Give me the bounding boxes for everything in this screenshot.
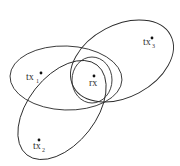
tx1-point-icon — [40, 72, 43, 75]
tx3-label: tx — [143, 36, 151, 47]
tx2-subscript: 2 — [42, 147, 45, 153]
tx3-subscript: 3 — [152, 43, 155, 49]
tx1-subscript: 1 — [36, 78, 39, 84]
rx-label: rx — [89, 77, 97, 88]
tx3-point-icon — [151, 37, 154, 40]
tx2-label: tx — [33, 140, 41, 151]
coverage-diagram: tx 1 rx tx 3 tx 2 — [0, 0, 180, 166]
diagram-canvas: tx 1 rx tx 3 tx 2 — [0, 0, 180, 166]
tx1-label: tx — [26, 71, 34, 82]
